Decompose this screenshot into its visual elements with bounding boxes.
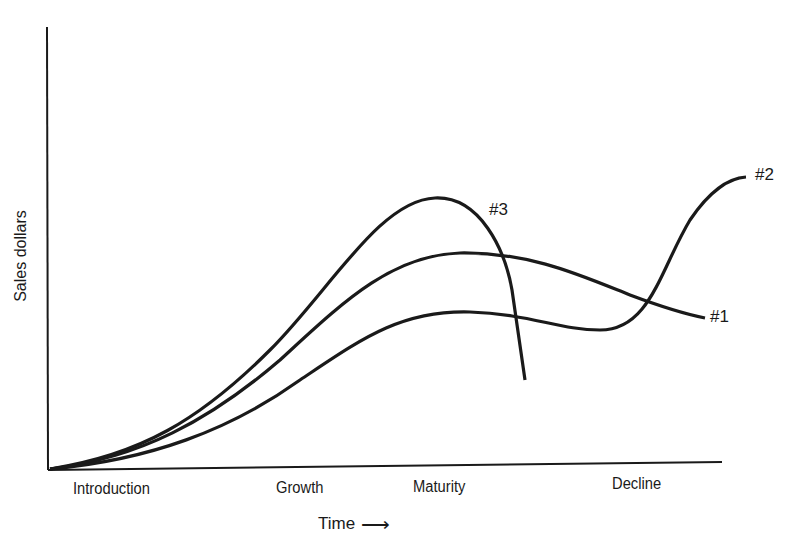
x-axis-label: Time ⟶ <box>318 512 390 536</box>
curve-2-label: #2 <box>755 165 774 185</box>
chart-canvas <box>0 0 805 553</box>
y-axis <box>47 27 48 470</box>
x-axis <box>48 462 722 470</box>
curve-3-label: #3 <box>489 200 508 220</box>
y-axis-label: Sales dollars <box>12 210 30 302</box>
curve-1-label: #1 <box>710 307 729 327</box>
stage-maturity: Maturity <box>413 478 465 496</box>
curve-2 <box>50 177 746 469</box>
curve-1 <box>50 253 705 469</box>
stage-growth: Growth <box>276 479 323 497</box>
arrow-right-icon: ⟶ <box>361 512 390 536</box>
curve-3 <box>50 198 525 469</box>
time-label: Time <box>318 514 355 534</box>
stage-introduction: Introduction <box>73 480 150 498</box>
stage-decline: Decline <box>612 475 661 493</box>
